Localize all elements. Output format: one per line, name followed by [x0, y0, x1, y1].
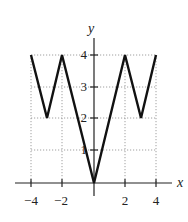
chart: −4 −2 2 4 4 3 2 1 x y — [0, 0, 188, 222]
x-tick-label: 4 — [153, 193, 160, 208]
x-tick-label: −2 — [54, 193, 68, 208]
y-axis-label: y — [86, 21, 95, 36]
y-tick-label: 2 — [81, 110, 88, 125]
y-tick-label: 3 — [81, 79, 88, 94]
x-tick-label: −4 — [24, 193, 38, 208]
x-axis-label: x — [176, 175, 184, 190]
y-tick-label: 1 — [81, 142, 88, 157]
axes — [15, 38, 172, 196]
x-tick-label: 2 — [122, 193, 129, 208]
y-tick-label: 4 — [81, 47, 88, 62]
